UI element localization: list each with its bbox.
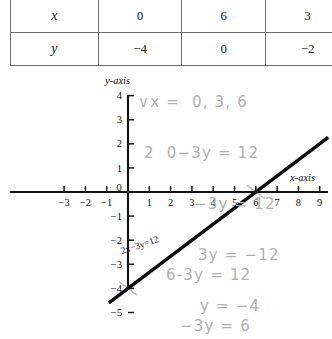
x-tick-label: −1	[101, 197, 112, 208]
x-tick-label: 2	[168, 197, 173, 208]
row-label-x: x	[11, 0, 99, 33]
x-tick-label: 8	[296, 197, 301, 208]
x-tick-label: −3	[59, 197, 70, 208]
graph-svg: −3−2−10123456789 4321−1−2−3−4−5 y-axis x…	[0, 68, 332, 339]
x-tick-label: 3	[189, 197, 194, 208]
table-row: y −4 0 −2	[11, 33, 332, 66]
cell-x-2: 3	[266, 0, 332, 33]
x-tick-label: 7	[274, 197, 279, 208]
x-tick-label: 1	[147, 197, 152, 208]
x-axis-label: x-axis	[289, 172, 315, 183]
table-row: x 0 6 3	[11, 0, 332, 33]
cell-x-0: 0	[98, 0, 182, 33]
x-tick-label: 4	[211, 197, 217, 208]
row-label-y: y	[11, 33, 99, 66]
y-tick-label: 3	[117, 114, 122, 125]
x-tick-label: −2	[80, 197, 91, 208]
plotted-line	[109, 137, 328, 303]
y-tick-label: −1	[111, 211, 122, 222]
x-tick-label: 9	[317, 197, 322, 208]
y-tick-label: −3	[111, 259, 122, 270]
y-tick-label: 2	[117, 138, 122, 149]
cell-y-1: 0	[182, 33, 266, 66]
y-tick-label: −5	[111, 307, 122, 318]
line-equation-label: 2x−3y=12	[120, 234, 161, 256]
x-tick-label: 0	[116, 182, 121, 193]
x-tick-label: 6	[253, 197, 258, 208]
y-axis-label: y-axis	[104, 75, 130, 86]
cell-y-0: −4	[98, 33, 182, 66]
y-tick-label: 1	[117, 163, 122, 174]
cell-y-2: −2	[266, 33, 332, 66]
cell-x-1: 6	[182, 0, 266, 33]
x-axis-ticks: −3−2−10123456789	[59, 182, 323, 208]
value-table: x 0 6 3 y −4 0 −2	[10, 0, 332, 66]
y-tick-label: −2	[111, 235, 122, 246]
y-tick-label: 4	[117, 90, 123, 101]
coordinate-graph: −3−2−10123456789 4321−1−2−3−4−5 y-axis x…	[0, 68, 332, 339]
